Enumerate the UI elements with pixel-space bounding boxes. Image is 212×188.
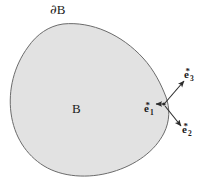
figure-container: ∂B B e*1 e*3 e*2	[0, 0, 212, 188]
boundary-set-letter: B	[57, 2, 66, 17]
vector-label-e3: e*3	[184, 67, 194, 82]
diagram-canvas	[0, 0, 212, 188]
contact-point-dot	[162, 102, 165, 105]
vector-e3-subscript: 3	[190, 74, 194, 83]
body-label: B	[72, 102, 81, 115]
vector-e1-subscript: 1	[150, 108, 154, 117]
vector-e3-arrow	[165, 81, 184, 103]
vector-label-e2: e*2	[182, 122, 192, 137]
vector-e2-subscript: 2	[188, 129, 192, 138]
boundary-label: ∂B	[50, 3, 65, 16]
vector-label-e1: e*1	[144, 101, 154, 116]
partial-symbol: ∂	[50, 2, 57, 17]
